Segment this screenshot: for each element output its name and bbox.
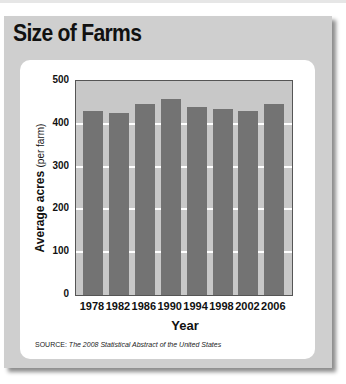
bar	[264, 104, 284, 295]
bar	[161, 99, 181, 295]
source-label: SOURCE:	[35, 341, 67, 348]
bar	[238, 111, 258, 295]
y-tick-label: 500	[42, 73, 69, 85]
chart-title: Size of Farms	[13, 19, 141, 47]
plot-area	[75, 80, 293, 296]
y-axis-label-main: Average acres	[33, 171, 47, 253]
y-axis-label: Average acres (per farm)	[33, 124, 47, 253]
bar	[213, 109, 233, 295]
y-axis-label-sub: (per farm)	[35, 124, 46, 168]
source-text: The 2008 Statistical Abstract of the Uni…	[69, 341, 221, 348]
source-note: SOURCE: The 2008 Statistical Abstract of…	[35, 341, 221, 348]
top-strip	[0, 0, 346, 3]
bar	[83, 111, 103, 295]
bar	[135, 104, 155, 295]
x-tick-label: 2006	[258, 300, 288, 312]
y-tick-label: 0	[42, 287, 69, 299]
bar	[109, 113, 129, 295]
x-axis-label: Year	[150, 318, 220, 333]
bar	[187, 107, 207, 295]
